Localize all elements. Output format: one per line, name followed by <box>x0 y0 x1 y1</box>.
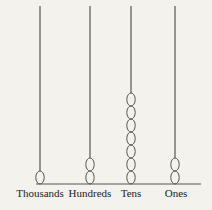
bead <box>127 132 135 145</box>
bead <box>127 171 135 184</box>
rod-thousands <box>36 6 44 184</box>
bead <box>171 171 179 184</box>
rod-label-thousands: Thousands <box>16 187 64 199</box>
bead <box>127 106 135 119</box>
bead <box>36 171 44 184</box>
abacus-diagram <box>0 0 212 210</box>
rod-label-ones: Ones <box>165 187 188 199</box>
bead <box>171 158 179 171</box>
bead <box>127 93 135 106</box>
bead <box>86 171 94 184</box>
bead <box>127 145 135 158</box>
rod-label-hundreds: Hundreds <box>69 187 112 199</box>
bead <box>86 158 94 171</box>
rod-ones <box>171 6 179 184</box>
bead <box>127 119 135 132</box>
rod-hundreds <box>86 6 94 184</box>
bead <box>127 158 135 171</box>
rod-tens <box>127 6 135 184</box>
rod-label-tens: Tens <box>121 187 142 199</box>
